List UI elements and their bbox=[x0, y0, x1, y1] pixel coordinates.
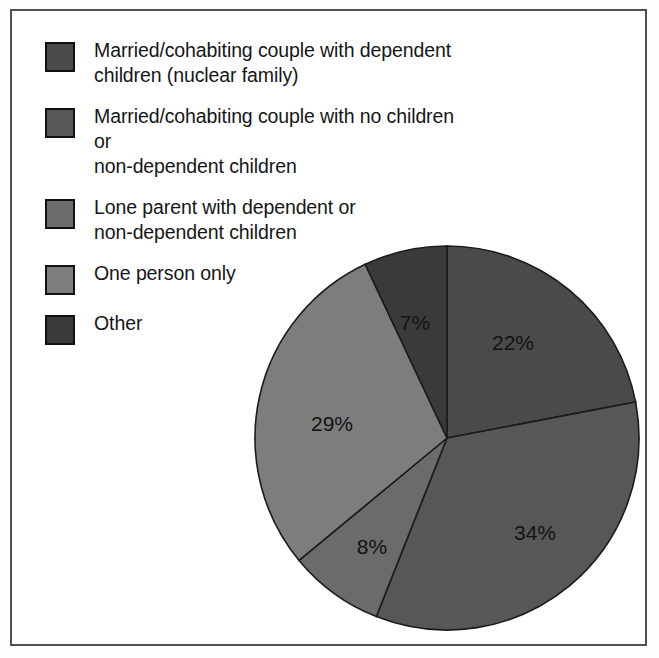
figure-container: Married/cohabiting couple with dependent… bbox=[0, 0, 659, 658]
legend-label-lone-parent: Lone parent with dependent or non-depend… bbox=[94, 195, 356, 245]
pie-slice-label-one-person-only: 29% bbox=[311, 412, 353, 435]
figure-frame: Married/cohabiting couple with dependent… bbox=[10, 9, 647, 646]
legend-label-other: Other bbox=[94, 311, 142, 336]
pie-slice-label-other: 7% bbox=[400, 311, 430, 334]
legend-item-nuclear-family[interactable]: Married/cohabiting couple with dependent… bbox=[45, 38, 475, 88]
legend-item-lone-parent[interactable]: Lone parent with dependent or non-depend… bbox=[45, 195, 475, 245]
legend-swatch-nuclear-family-icon bbox=[45, 42, 75, 72]
legend-swatch-one-person-only-icon bbox=[45, 265, 75, 295]
legend-label-couple-no-children: Married/cohabiting couple with no childr… bbox=[94, 104, 475, 179]
pie-chart: 22%34%8%29%7% bbox=[252, 243, 642, 633]
pie-chart-svg: 22%34%8%29%7% bbox=[252, 243, 642, 633]
legend-label-one-person-only: One person only bbox=[94, 261, 236, 286]
pie-slice-label-lone-parent: 8% bbox=[357, 535, 387, 558]
legend-swatch-other-icon bbox=[45, 315, 75, 345]
legend-label-nuclear-family: Married/cohabiting couple with dependent… bbox=[94, 38, 451, 88]
pie-slice-group bbox=[255, 246, 639, 630]
legend-item-couple-no-children[interactable]: Married/cohabiting couple with no childr… bbox=[45, 104, 475, 179]
pie-slice-label-couple-no-children: 34% bbox=[514, 521, 556, 544]
pie-slice-label-nuclear-family: 22% bbox=[492, 331, 534, 354]
legend-swatch-lone-parent-icon bbox=[45, 199, 75, 229]
legend-swatch-couple-no-children-icon bbox=[45, 108, 75, 138]
